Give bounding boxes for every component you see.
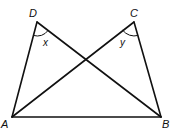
geometry-diagram: D C A B x y — [0, 0, 174, 135]
point-label-d: D — [29, 7, 37, 19]
segment-bd — [37, 22, 161, 117]
point-label-a: A — [0, 118, 8, 130]
point-label-c: C — [130, 7, 138, 19]
angle-arc-x — [33, 31, 48, 36]
angle-label-y: y — [119, 37, 126, 48]
point-label-b: B — [162, 118, 169, 130]
segment-bc — [134, 22, 161, 117]
angle-arc-y — [123, 31, 138, 37]
angle-label-x: x — [42, 37, 49, 48]
segment-ad — [12, 22, 37, 117]
segment-ac — [12, 22, 134, 117]
